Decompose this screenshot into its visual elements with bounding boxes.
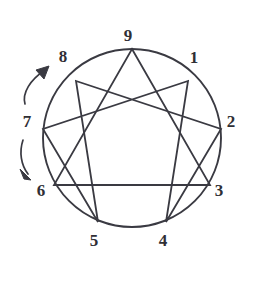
point-label-8: 8 bbox=[53, 48, 73, 65]
enneagram-diagram: 9 1 2 3 4 5 6 7 8 bbox=[0, 0, 253, 288]
arrow-down-left-shaft bbox=[21, 140, 28, 174]
point-label-3: 3 bbox=[209, 182, 229, 199]
arrow-up-left-head bbox=[36, 66, 49, 79]
enneagram-circle bbox=[43, 49, 221, 227]
point-label-7: 7 bbox=[17, 113, 37, 130]
arrow-toward-eight bbox=[24, 66, 49, 104]
point-label-1: 1 bbox=[184, 49, 204, 66]
point-label-5: 5 bbox=[84, 232, 104, 249]
point-label-2: 2 bbox=[221, 113, 241, 130]
point-label-6: 6 bbox=[31, 182, 51, 199]
point-label-4: 4 bbox=[153, 232, 173, 249]
point-label-9: 9 bbox=[118, 27, 138, 44]
arrow-toward-six bbox=[20, 140, 31, 180]
